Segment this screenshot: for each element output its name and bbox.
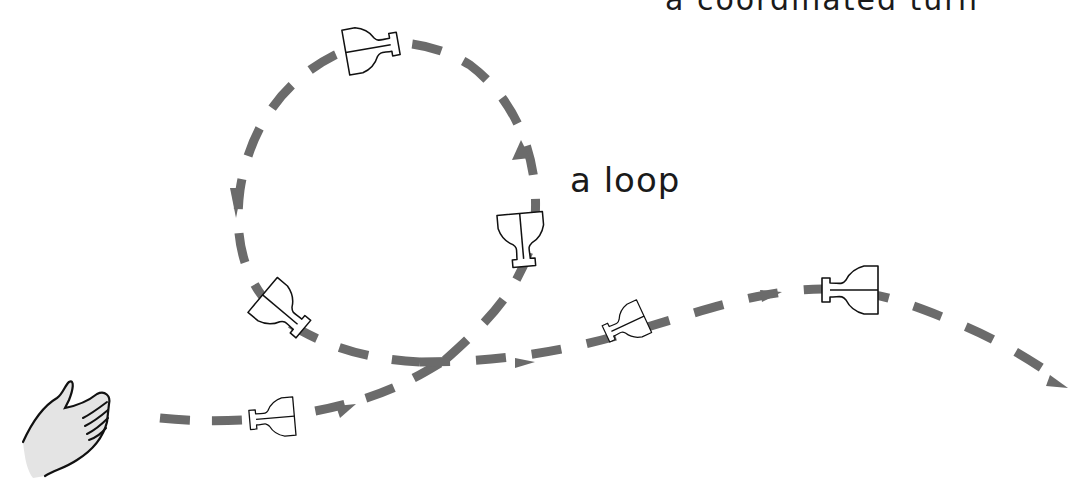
- plane-icon-right: [822, 266, 878, 314]
- turn-label: a coordinated turn: [665, 0, 979, 17]
- plane-icon-loop-right: [497, 212, 547, 269]
- flight-path-launch: [160, 360, 445, 421]
- plane-icon-loop-top: [342, 21, 402, 75]
- plane-icon-launch: [248, 397, 296, 439]
- hand-icon: [23, 381, 109, 478]
- loop-label: a loop: [570, 160, 680, 200]
- flight-diagram: [0, 0, 1089, 497]
